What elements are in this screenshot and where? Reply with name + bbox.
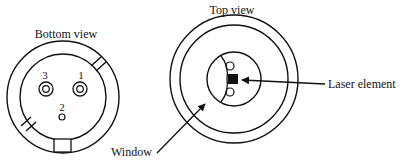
bottom-outer-ring [7,41,119,153]
bottom-view: Bottom view 3 1 [7,27,119,153]
bottom-inner-ring [20,54,106,140]
laser-diode-package-diagram: Bottom view 3 1 [0,0,408,160]
window-arrow [157,104,205,153]
bottom-view-title: Bottom view [35,27,98,41]
pin-2-label: 2 [59,101,65,113]
pin-3-label: 3 [42,69,48,81]
top-pin-lower [226,88,234,96]
top-pin-upper [226,62,234,70]
pin-1-label: 1 [78,69,84,81]
pin-2: 2 [59,101,65,120]
laser-element-arrow [242,80,325,84]
diagram-canvas: Bottom view 3 1 [0,0,408,160]
top-view: Top view Laser element Window [111,3,396,159]
window-label: Window [111,145,152,159]
laser-element-chip [228,74,238,84]
pin-3: 3 [39,69,53,96]
bottom-key-tab [54,139,71,152]
pin-1: 1 [73,69,87,96]
laser-element-label: Laser element [328,77,396,91]
window-inner-arcs [221,56,227,102]
